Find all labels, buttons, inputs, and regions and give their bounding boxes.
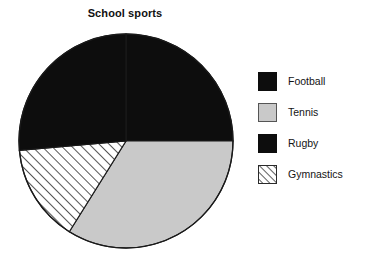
chart-legend: Football Tennis Rugby — [258, 66, 370, 190]
pie-slice-rugby[interactable] — [19, 34, 126, 150]
legend-item-gymnastics[interactable]: Gymnastics — [258, 159, 370, 190]
pie-chart-figure: School sports Football Tennis Rugby — [0, 0, 373, 266]
chart-title: School sports — [0, 7, 250, 19]
hatch-pattern-icon — [259, 166, 276, 183]
pie-slice-football[interactable] — [126, 34, 233, 141]
legend-swatch-football-icon — [258, 72, 277, 91]
legend-item-rugby[interactable]: Rugby — [258, 128, 370, 159]
legend-label-tennis: Tennis — [288, 107, 318, 118]
legend-swatch-tennis-icon — [258, 103, 277, 122]
legend-label-rugby: Rugby — [288, 138, 318, 149]
pie-slices-group — [19, 34, 233, 248]
pie-plot-area — [14, 30, 238, 254]
legend-swatch-gymnastics-icon — [258, 165, 277, 184]
pie-svg — [14, 30, 238, 254]
legend-item-football[interactable]: Football — [258, 66, 370, 97]
legend-label-gymnastics: Gymnastics — [288, 169, 343, 180]
legend-swatch-rugby-icon — [258, 134, 277, 153]
legend-label-football: Football — [288, 76, 325, 87]
legend-item-tennis[interactable]: Tennis — [258, 97, 370, 128]
